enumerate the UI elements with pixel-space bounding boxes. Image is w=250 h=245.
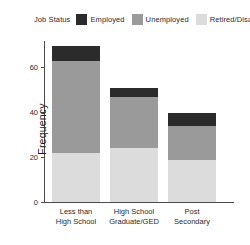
legend-title: Job Status — [34, 15, 70, 24]
bar-segment-unemployed — [110, 97, 158, 148]
y-axis-tick-mark — [41, 202, 44, 203]
x-axis-label-line: Secondary — [152, 217, 232, 227]
legend-swatch-retired-disabled — [196, 14, 207, 25]
legend-swatch-employed — [76, 14, 87, 25]
y-axis-tick-label: 0 — [34, 198, 38, 207]
legend: Job Status Employed Unemployed Retired/D… — [34, 13, 250, 25]
plot-area: 0204060 Less thanHigh SchoolHigh SchoolG… — [44, 41, 234, 203]
bar-3 — [168, 113, 216, 202]
legend-entry-unemployed: Unemployed — [132, 14, 189, 25]
legend-swatch-unemployed — [132, 14, 143, 25]
bar-segment-employed — [168, 113, 216, 126]
bar-1 — [52, 46, 100, 203]
bar-segment-employed — [52, 46, 100, 62]
legend-entry-employed: Employed — [76, 14, 124, 25]
bar-segment-retired-disabled — [52, 153, 100, 202]
x-axis-label-line: Post — [152, 207, 232, 217]
bar-2 — [110, 88, 158, 202]
legend-label-retired-disabled: Retired/Disabled — [210, 15, 250, 24]
legend-entry-retired-disabled: Retired/Disabled — [196, 14, 250, 25]
y-axis-title: Frequency — [36, 69, 48, 189]
bar-segment-unemployed — [52, 61, 100, 153]
chart-screenshot: Job Status Employed Unemployed Retired/D… — [0, 0, 250, 245]
x-axis-label-3: PostSecondary — [152, 207, 232, 226]
legend-label-unemployed: Unemployed — [146, 15, 189, 24]
bar-segment-employed — [110, 88, 158, 97]
x-axis-line — [44, 202, 234, 203]
bar-segment-retired-disabled — [168, 160, 216, 202]
bar-segment-retired-disabled — [110, 148, 158, 202]
legend-label-employed: Employed — [90, 15, 124, 24]
bar-segment-unemployed — [168, 126, 216, 160]
